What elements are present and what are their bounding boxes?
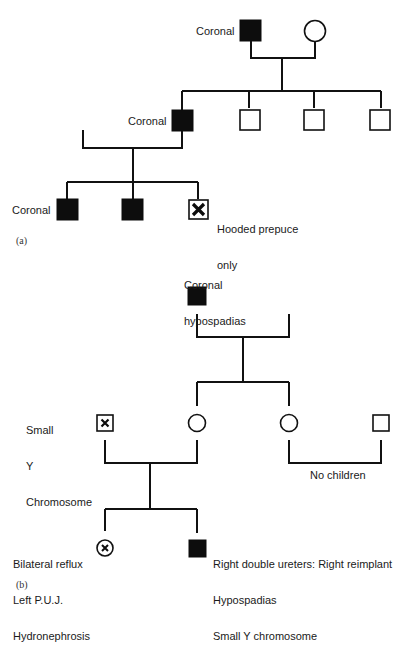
male-symbol <box>373 415 389 431</box>
affected-male-symbol <box>189 540 206 557</box>
label-line: Y <box>26 460 92 472</box>
male-symbol <box>370 110 390 130</box>
female-symbol <box>189 415 206 432</box>
label-line: Small <box>26 424 92 436</box>
label-line: Hooded prepuce <box>217 223 298 235</box>
marriage-line <box>289 440 381 463</box>
gen3-son-label: Right double ureters: Right reimplant Hy… <box>213 534 392 646</box>
affected-male-symbol <box>172 110 193 131</box>
marriage-line <box>251 41 315 58</box>
label-line: Coronal <box>184 279 246 291</box>
label-line: Chromosome <box>26 496 92 508</box>
label-line: Left P.U.J. <box>13 594 90 606</box>
no-children-note: No children <box>310 469 366 481</box>
female-symbol <box>281 415 298 432</box>
label-line: Right double ureters: Right reimplant <box>213 558 392 570</box>
gen3-daughter-label: Bilateral reflux Left P.U.J. Hydronephro… <box>13 534 90 646</box>
sibship-line <box>197 382 289 406</box>
affected-male-symbol <box>240 20 261 41</box>
label-line: hypospadias <box>184 315 246 327</box>
sibship-line <box>182 91 381 110</box>
gen1-father-label: Coronal hypospadias <box>184 255 246 351</box>
female-symbol <box>305 21 326 42</box>
gen2-husband-label: Small Y Chromosome <box>26 400 92 532</box>
gen3-son1-label: Coronal <box>12 204 51 216</box>
label-line: Bilateral reflux <box>13 558 90 570</box>
affected-male-symbol <box>57 199 78 220</box>
marriage-line <box>105 440 197 463</box>
male-symbol <box>304 110 324 130</box>
label-line: Hypospadias <box>213 594 392 606</box>
affected-male-symbol <box>122 199 143 220</box>
marriage-line <box>83 130 182 148</box>
sibship-line <box>67 182 198 199</box>
label-line: Small Y chromosome <box>213 630 392 642</box>
label-line: Hydronephrosis <box>13 630 90 642</box>
sibship-line <box>105 509 197 533</box>
gen1-father-label: Coronal <box>196 25 235 37</box>
male-symbol <box>240 110 260 130</box>
panel-b-label: (b) <box>16 579 28 590</box>
gen2-son-label: Coronal <box>128 115 167 127</box>
panel-a-label: (a) <box>16 235 27 246</box>
